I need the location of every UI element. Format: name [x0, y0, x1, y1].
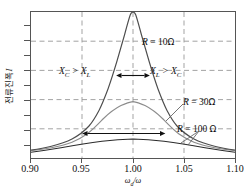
equals-sign: =	[189, 97, 199, 107]
r30-leader-line	[166, 104, 183, 121]
gt-operator: >	[69, 66, 80, 76]
x-tick-label: 1.10	[226, 163, 244, 174]
r100-value: 100	[193, 124, 210, 134]
resonance-curve-figure: 전류진폭I 0.90 0.95 1.00 1.05 1.10 ωd/ω	[0, 0, 248, 192]
x-tick-label: 0.90	[21, 163, 39, 174]
gt-operator: >	[160, 66, 171, 76]
y-axis-label: 전류진폭I	[2, 69, 14, 104]
r30-value: 30	[199, 97, 209, 107]
xc-subscript: C	[177, 71, 182, 79]
x-axis-label-tail: /ω	[133, 176, 141, 185]
x-tick-label: 1.05	[175, 163, 193, 174]
equals-sign: =	[148, 37, 158, 47]
xl-subscript: L	[86, 71, 90, 79]
annotation-xl-gt-xc: XL > XC	[150, 66, 181, 79]
plot-area: XC > XL XL > XC R = 10Ω R = 30Ω R = 100 …	[30, 11, 236, 159]
curve-label-r100: R = 100 Ω	[177, 124, 216, 134]
x-axis-label: ωd/ω	[125, 176, 142, 187]
annotation-xc-gt-xl: XC > XL	[59, 66, 90, 79]
ohm-symbol: Ω	[210, 124, 217, 134]
y-axis-label-symbol: I	[4, 69, 14, 72]
equals-sign: =	[183, 124, 193, 134]
r10-value: 10	[158, 37, 168, 47]
y-axis-label-container: 전류진폭I	[0, 38, 16, 134]
x-tick-label: 0.95	[72, 163, 90, 174]
annotation-arrows-layer	[31, 12, 235, 158]
y-axis-label-korean: 전류진폭	[4, 72, 14, 104]
ohm-symbol: Ω	[208, 97, 215, 107]
curve-label-r30: R = 30Ω	[183, 97, 215, 107]
x-tick-label: 1.00	[124, 163, 142, 174]
ohm-symbol: Ω	[167, 37, 174, 47]
curve-label-r10: R = 10Ω	[142, 37, 174, 47]
